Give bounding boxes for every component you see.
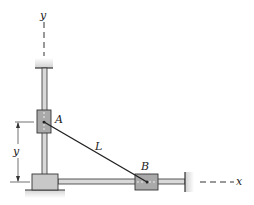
y-axis-label: y xyxy=(39,9,47,22)
base-block xyxy=(32,174,58,190)
dimension-y: y xyxy=(10,122,34,182)
x-axis-label: x xyxy=(236,175,243,188)
top-wall-support xyxy=(35,58,53,68)
right-wall-support xyxy=(185,172,194,192)
ground xyxy=(25,190,65,198)
pin-b xyxy=(146,181,149,184)
collar-a-label: A xyxy=(54,113,63,126)
horizontal-guide-rod xyxy=(58,179,185,184)
dimension-y-label: y xyxy=(12,145,20,158)
pin-a xyxy=(43,121,46,124)
mechanism-diagram: y x A B L xyxy=(0,0,254,205)
collar-b: B xyxy=(135,160,158,190)
collar-b-label: B xyxy=(140,160,149,173)
x-axis: x xyxy=(200,175,243,188)
y-axis: y xyxy=(39,9,47,56)
collar-a: A xyxy=(37,110,63,133)
rod-length-label: L xyxy=(94,140,102,153)
